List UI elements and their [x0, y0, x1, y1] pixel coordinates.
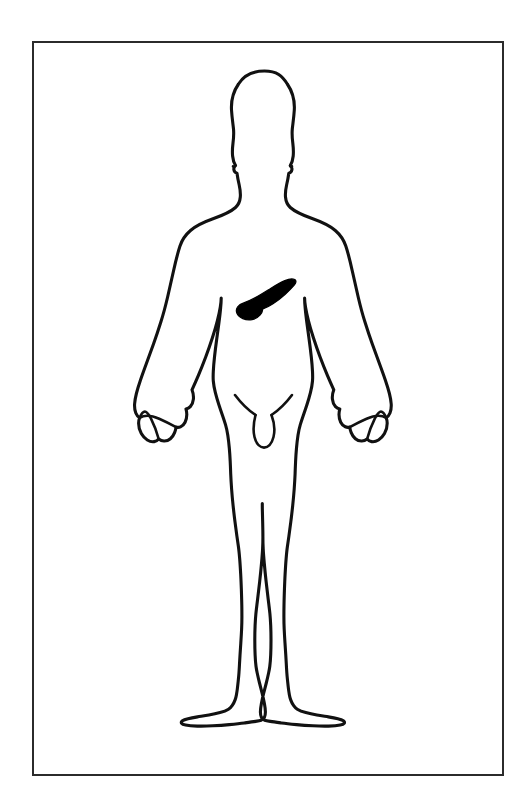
left-ear-notch	[233, 166, 236, 167]
right-ear-notch	[290, 166, 292, 167]
anatomy-illustration	[0, 0, 527, 801]
anatomy-canvas	[0, 0, 527, 801]
